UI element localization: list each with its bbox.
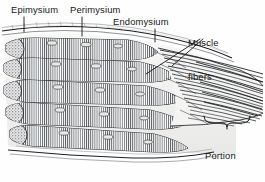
label-endomysium: Endomysium	[113, 17, 169, 28]
label-tendon-line1: Portion	[205, 150, 245, 161]
label-epimysium: Epimysium	[11, 5, 58, 16]
label-muscle-fibers-line1: Muscle	[188, 37, 219, 48]
label-perimysium: Perimysium	[70, 5, 120, 16]
label-muscle-fibers: Muscle fibers	[188, 15, 219, 93]
label-muscle-fibers-line2: fibers	[188, 71, 219, 82]
label-portion-of-tendon: Portion of tendon	[205, 128, 245, 182]
